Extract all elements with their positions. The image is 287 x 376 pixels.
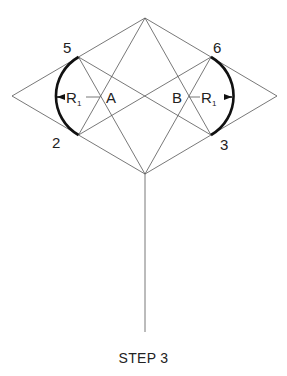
construction-line-top-3	[145, 18, 211, 135]
left-radius-arrowhead-icon	[57, 94, 65, 100]
label-radius-right-sub: 1	[212, 99, 217, 108]
label-point-2: 2	[52, 134, 60, 151]
construction-line-top-2	[79, 18, 146, 135]
label-center-b: B	[172, 89, 182, 106]
label-point-6: 6	[213, 39, 221, 56]
label-point-3: 3	[220, 136, 228, 153]
label-center-a: A	[106, 89, 116, 106]
label-point-5: 5	[63, 39, 71, 56]
construction-line-bottom-5	[79, 57, 146, 174]
step-caption: STEP 3	[0, 350, 287, 366]
right-radius-arrowhead-icon	[224, 94, 232, 100]
label-radius-right: R	[201, 89, 212, 106]
construction-line-bottom-6	[145, 57, 211, 174]
label-radius-left-sub: 1	[77, 99, 82, 108]
isometric-circle-construction: 5 6 2 3 A B R 1 R 1	[0, 0, 287, 376]
label-radius-left: R	[66, 89, 77, 106]
